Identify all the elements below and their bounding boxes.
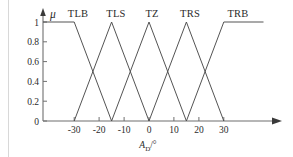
- y-tick-label-0.2: 0.2: [27, 97, 39, 107]
- y-axis-title: μ: [49, 8, 56, 21]
- curve-TZ: [112, 22, 187, 121]
- y-tick-label-1: 1: [34, 18, 39, 28]
- x-tick-label--10: -10: [118, 125, 131, 135]
- y-tick-label-0.6: 0.6: [27, 57, 39, 67]
- axes: [40, 8, 282, 124]
- set-labels: TLB TLS TZ TRS TRB: [68, 8, 249, 19]
- x-axis-title: AD/°: [138, 140, 157, 153]
- y-axis-ticks: 0 0.2 0.4 0.6 0.8 1: [27, 18, 47, 127]
- x-axis-title-unit: /°: [150, 140, 157, 150]
- y-tick-label-0.8: 0.8: [27, 37, 39, 47]
- set-label-TZ: TZ: [145, 8, 158, 19]
- curve-TRB: [186, 22, 263, 121]
- x-tick-label-20: 20: [194, 125, 204, 135]
- x-tick-label-0: 0: [147, 125, 152, 135]
- set-label-TRB: TRB: [227, 8, 248, 19]
- chart-svg: 0 0.2 0.4 0.6 0.8 1 -30 -20 -10 0 10 20 …: [0, 0, 293, 157]
- curve-TRS: [149, 22, 224, 121]
- membership-function-chart: 0 0.2 0.4 0.6 0.8 1 -30 -20 -10 0 10 20 …: [0, 0, 293, 157]
- y-axis-arrow-icon: [40, 8, 46, 16]
- x-tick-label--20: -20: [93, 125, 106, 135]
- x-tick-label-10: 10: [169, 125, 179, 135]
- x-axis-arrow-icon: [272, 118, 282, 125]
- x-tick-label-30: 30: [219, 125, 229, 135]
- set-label-TRS: TRS: [180, 8, 200, 19]
- curve-TLB: [43, 22, 112, 121]
- membership-curves: [43, 22, 264, 121]
- x-tick-label--30: -30: [68, 125, 81, 135]
- y-tick-label-0.4: 0.4: [27, 77, 39, 87]
- set-label-TLS: TLS: [106, 8, 125, 19]
- y-tick-label-0: 0: [34, 117, 39, 127]
- curve-TLS: [74, 22, 149, 121]
- set-label-TLB: TLB: [68, 8, 88, 19]
